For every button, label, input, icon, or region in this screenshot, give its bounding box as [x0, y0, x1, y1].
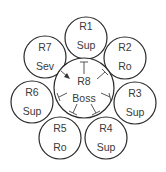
node-id: R7: [38, 41, 52, 53]
node-id: R8: [77, 75, 91, 87]
node-role: Sup: [126, 106, 145, 118]
network-diagram: R1 Sup R2 Ro R3 Sup R4 Sup R5 Ro R6 Sup …: [0, 0, 166, 172]
node-role: Boss: [72, 92, 95, 104]
node-r4: R4 Sup: [85, 117, 127, 159]
node-role: Sup: [77, 39, 96, 51]
node-r6: R6 Sup: [11, 81, 53, 123]
node-r5: R5 Ro: [39, 117, 81, 159]
node-r1: R1 Sup: [65, 17, 107, 59]
node-id: R2: [118, 41, 132, 53]
node-role: Ro: [53, 141, 67, 153]
node-role: Sup: [97, 141, 116, 153]
node-id: R4: [99, 122, 113, 134]
node-id: R6: [25, 86, 39, 98]
node-role: Sev: [36, 60, 55, 72]
node-id: R3: [128, 87, 142, 99]
node-role: Ro: [118, 60, 132, 72]
node-id: R5: [53, 122, 67, 134]
node-id: R1: [79, 20, 93, 32]
node-r3: R3 Sup: [114, 82, 156, 124]
node-role: Sup: [23, 105, 42, 117]
